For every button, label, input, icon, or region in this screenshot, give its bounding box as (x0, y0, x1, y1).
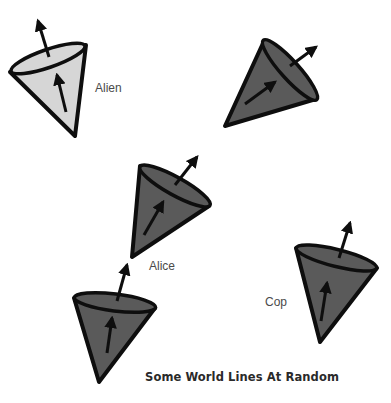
alien-light-cone (8, 21, 88, 136)
cop-light-cone (294, 223, 379, 342)
top-right-outer-arrow-icon (290, 47, 316, 66)
alice-light-cone (132, 157, 214, 257)
cop-label: Cop (265, 295, 287, 309)
diagram-caption: Some World Lines At Random (145, 370, 339, 384)
alice-label: Alice (149, 259, 175, 273)
world-lines-diagram (0, 0, 391, 403)
top-right-light-cone (225, 34, 323, 126)
bottom-left-light-cone (73, 265, 156, 382)
alien-label: Alien (95, 81, 122, 95)
